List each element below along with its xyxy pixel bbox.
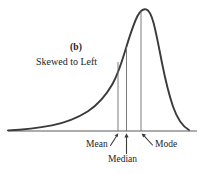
median-label: Median — [108, 155, 137, 165]
mode-label: Mode — [155, 140, 177, 150]
panel-letter: (b) — [70, 43, 82, 53]
mean-arrow — [111, 133, 119, 145]
mode-arrow — [142, 133, 153, 145]
median-arrow — [124, 133, 128, 153]
mean-label: Mean — [86, 140, 108, 150]
density-curve — [8, 9, 189, 130]
skewed-left-distribution-figure: (b) Skewed to Left Mean Median Mode — [0, 0, 207, 175]
panel-caption: Skewed to Left — [36, 57, 97, 67]
